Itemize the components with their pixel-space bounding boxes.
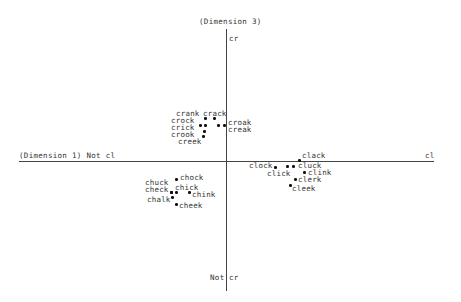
data-point [286,165,289,168]
point-label: crack [203,110,227,118]
data-point [170,191,173,194]
data-point [175,178,178,181]
point-label: creek [178,138,202,146]
data-point [199,124,202,127]
data-point [223,124,226,127]
vertical-axis [226,29,227,291]
point-label: creak [228,126,252,134]
data-point [171,196,174,199]
horizontal-axis [19,161,434,162]
data-point [203,130,206,133]
data-point [202,135,205,138]
point-label: cheek [179,202,203,210]
point-label: chink [192,191,216,199]
point-label: clerk [298,176,322,184]
x-positive-label: cl [425,152,435,160]
data-point [294,178,297,181]
data-point [204,124,207,127]
data-point [292,165,295,168]
x-negative-label: (Dimension 1) Not cl [19,152,115,160]
point-label: clack [302,152,326,160]
point-label: check [145,186,169,194]
data-point [217,124,220,127]
data-point [303,171,306,174]
y-negative-label: cr [229,274,239,282]
chart-area: (Dimension 3) cr (Dimension 1) Not cl cl… [0,0,461,302]
y-negative-not-label: Not [210,274,224,282]
point-label: chock [180,174,204,182]
point-label: cleek [292,185,316,193]
y-positive-label: cr [229,35,239,43]
dimension-3-title: (Dimension 3) [199,18,262,26]
point-label: chalk [147,196,171,204]
point-label: click [267,170,291,178]
data-point [175,203,178,206]
data-point [188,191,191,194]
